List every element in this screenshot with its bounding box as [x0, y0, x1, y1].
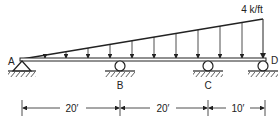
label-b: B [117, 80, 124, 91]
beam [20, 58, 266, 61]
label-a: A [8, 56, 15, 67]
label-c: C [204, 80, 211, 91]
label-d: D [271, 55, 278, 66]
roller-support-b [105, 61, 135, 77]
span-bc-label: 20′ [157, 103, 170, 114]
roller-support-c [193, 61, 223, 77]
span-ab-label: 20′ [66, 103, 79, 114]
distributed-load [22, 19, 263, 59]
beam-diagram: 4 k/ft A B C D 20′ 20 [0, 0, 279, 125]
load-label: 4 k/ft [241, 4, 263, 15]
span-cd-label: 10′ [232, 103, 245, 114]
dimension-lines [22, 100, 265, 116]
